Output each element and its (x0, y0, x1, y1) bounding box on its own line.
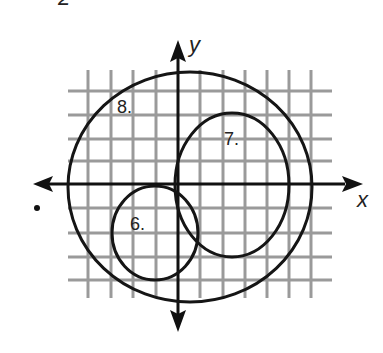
y-axis (170, 40, 186, 332)
circle-8-label: 8. (117, 97, 132, 117)
stray-dot (34, 205, 40, 211)
circle-7-label: 7. (224, 129, 239, 149)
coordinate-plane-diagram: 2 y x 8. 7. (0, 0, 383, 353)
x-axis-label: x (356, 187, 369, 212)
top-fragment-text: 2 (57, 0, 70, 10)
x-axis (33, 176, 363, 192)
circle-6-label: 6. (130, 214, 145, 234)
y-axis-label: y (187, 32, 202, 57)
circle-8 (68, 72, 312, 302)
